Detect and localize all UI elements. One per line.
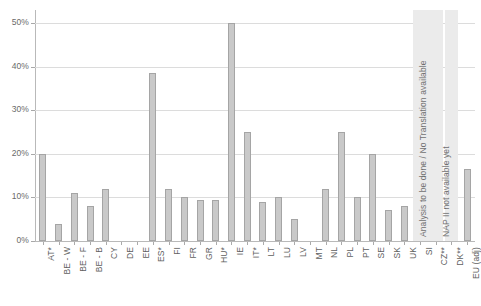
x-tick-label: IE: [235, 247, 245, 255]
x-tick-mark: [43, 242, 44, 245]
bar: [149, 73, 156, 241]
x-tick-mark: [231, 242, 232, 245]
bar: [39, 154, 46, 241]
x-tick-mark: [59, 242, 60, 245]
x-tick-mark: [294, 242, 295, 245]
x-tick-mark: [451, 242, 452, 245]
x-tick-mark: [279, 242, 280, 245]
x-tick-label: HU*: [219, 247, 229, 263]
x-tick-mark: [121, 242, 122, 245]
bar: [322, 189, 329, 241]
annotation-band: Analysis to be done / No Translation ava…: [413, 10, 442, 241]
x-tick-label: CY: [109, 247, 119, 259]
x-tick-mark: [310, 242, 311, 245]
annotation-label: NAP II not available yet: [441, 146, 451, 237]
x-tick-label: SI: [424, 247, 434, 255]
gridline: [35, 110, 475, 111]
bar: [197, 200, 204, 241]
x-tick-mark: [436, 242, 437, 245]
x-tick-mark: [90, 242, 91, 245]
y-tick-mark: [31, 197, 35, 198]
bar: [275, 197, 282, 241]
bar: [385, 210, 392, 241]
gridline: [35, 67, 475, 68]
x-tick-label: EU (adj): [471, 247, 481, 279]
x-tick-mark: [404, 242, 405, 245]
x-tick-label: BE - W: [62, 247, 72, 275]
x-tick-label: DK**: [455, 247, 465, 266]
x-tick-label: EE: [141, 247, 151, 259]
x-tick-mark: [216, 242, 217, 245]
x-tick-mark: [326, 242, 327, 245]
bar: [401, 206, 408, 241]
x-tick-label: IT*: [251, 247, 261, 258]
x-tick-mark: [389, 242, 390, 245]
bar: [354, 197, 361, 241]
x-tick-mark: [153, 242, 154, 245]
x-tick-mark: [467, 242, 468, 245]
bar: [338, 132, 345, 241]
x-tick-label: LT: [266, 247, 276, 257]
y-tick-label: 20%: [2, 148, 29, 158]
y-tick-mark: [31, 67, 35, 68]
y-tick-label: 30%: [2, 104, 29, 114]
x-tick-mark: [373, 242, 374, 245]
gridline: [35, 197, 475, 198]
bar: [244, 132, 251, 241]
bar: [87, 206, 94, 241]
gridline: [35, 23, 475, 24]
x-tick-label: BE - B: [94, 247, 104, 272]
bar: [369, 154, 376, 241]
bar: [165, 189, 172, 241]
y-tick-label: 0%: [2, 235, 29, 245]
y-tick-mark: [31, 154, 35, 155]
plot-area: Analysis to be done / No Translation ava…: [35, 10, 475, 241]
x-tick-mark: [357, 242, 358, 245]
bar: [228, 23, 235, 241]
y-tick-label: 50%: [2, 17, 29, 27]
bar-chart: Analysis to be done / No Translation ava…: [0, 0, 481, 306]
x-tick-label: MT: [314, 247, 324, 259]
y-tick-mark: [31, 23, 35, 24]
x-tick-label: PL: [345, 247, 355, 258]
x-tick-label: LV: [298, 247, 308, 257]
x-tick-label: UK: [408, 247, 418, 259]
x-tick-label: AT*: [46, 247, 56, 261]
bar: [71, 193, 78, 241]
x-tick-label: CZ**: [439, 247, 449, 265]
bar: [55, 224, 62, 241]
bar: [102, 189, 109, 241]
x-axis-line: [35, 241, 475, 242]
x-tick-mark: [420, 242, 421, 245]
x-tick-label: FR: [188, 247, 198, 259]
x-tick-label: PT: [361, 247, 371, 258]
gridline: [35, 154, 475, 155]
y-tick-mark: [31, 241, 35, 242]
x-tick-mark: [137, 242, 138, 245]
x-tick-mark: [247, 242, 248, 245]
x-tick-mark: [106, 242, 107, 245]
bar: [291, 219, 298, 241]
x-tick-label: ES*: [156, 247, 166, 262]
annotation-label: Analysis to be done / No Translation ava…: [418, 60, 428, 237]
x-tick-mark: [74, 242, 75, 245]
x-tick-mark: [263, 242, 264, 245]
x-tick-label: BE - F: [78, 247, 88, 272]
bar: [259, 202, 266, 241]
x-tick-mark: [341, 242, 342, 245]
x-tick-label: GR: [204, 247, 214, 260]
y-tick-mark: [31, 110, 35, 111]
x-tick-label: FI: [172, 247, 182, 255]
annotation-band: NAP II not available yet: [445, 10, 459, 241]
x-tick-label: LU: [282, 247, 292, 258]
x-tick-label: SE: [376, 247, 386, 259]
x-tick-label: SK: [392, 247, 402, 259]
bar: [181, 197, 188, 241]
x-tick-mark: [169, 242, 170, 245]
x-tick-label: NL: [329, 247, 339, 258]
y-tick-label: 10%: [2, 191, 29, 201]
bar: [212, 200, 219, 241]
x-tick-mark: [200, 242, 201, 245]
bar: [464, 169, 471, 241]
x-tick-label: DE: [125, 247, 135, 259]
